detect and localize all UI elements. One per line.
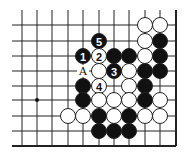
stone-circle [122,64,137,79]
black-stone [153,34,168,49]
white-stone [107,109,122,124]
stone-circle [107,124,122,139]
stone-circle [138,18,153,33]
stone-circle [153,109,168,124]
black-stone [122,124,137,139]
stone-circle [76,93,91,108]
white-stone [107,93,122,108]
stone-circle [61,109,76,124]
stone-circle [138,109,153,124]
black-stone [92,109,107,124]
black-stone [76,93,91,108]
white-stone [138,34,153,49]
white-stone [122,64,137,79]
white-stone [92,64,107,79]
black-stone [138,93,153,108]
move-number: 5 [96,36,102,48]
black-stone [138,64,153,79]
go-board: A 51234 [0,0,189,156]
point-labels: A [77,65,89,78]
black-stone [153,64,168,79]
stone-circle [138,79,153,94]
black-stone [122,49,137,64]
stone-circle [107,93,122,108]
black-stone [92,124,107,139]
stone-circle [92,93,107,108]
white-stone [138,109,153,124]
white-stone [153,93,168,108]
stone-circle [122,124,137,139]
stone-circle [92,64,107,79]
stone-circle [92,124,107,139]
stone-circle [122,49,137,64]
stone-circle [153,34,168,49]
move-number: 4 [96,81,103,93]
star-point [35,98,39,102]
white-stone [61,109,76,124]
white-stone [122,79,137,94]
move-number: 3 [111,66,117,78]
stone-circle [92,109,107,124]
stone-circle [122,93,137,108]
black-stone-move-5: 5 [92,34,107,49]
white-stone-move-2: 2 [92,49,107,64]
black-stone [107,124,122,139]
stone-circle [107,109,122,124]
white-stone-move-4: 4 [92,79,107,94]
white-stone [138,18,153,33]
black-stone [153,49,168,64]
stone-circle [153,18,168,33]
black-stone [107,49,122,64]
move-number: 2 [96,51,102,63]
stone-circle [153,93,168,108]
move-number: 1 [80,51,86,63]
white-stone [153,18,168,33]
stone-circle [107,49,122,64]
black-stone [138,79,153,94]
stone-circle [138,34,153,49]
star-points [35,98,39,102]
point-label-a: A [78,65,88,78]
stone-circle [153,64,168,79]
stone-circle [138,64,153,79]
stone-circle [138,93,153,108]
stone-circle [76,109,91,124]
stone-circle [76,79,91,94]
stone-circle [153,49,168,64]
white-stone [153,109,168,124]
black-stone-move-3: 3 [107,64,122,79]
black-stone [122,109,137,124]
white-stone [122,93,137,108]
black-stone [76,79,91,94]
white-stone [92,93,107,108]
stone-circle [122,109,137,124]
stone-circle [138,49,153,64]
white-stone [138,49,153,64]
black-stone-move-1: 1 [76,49,91,64]
white-stone [76,109,91,124]
stone-circle [122,79,137,94]
